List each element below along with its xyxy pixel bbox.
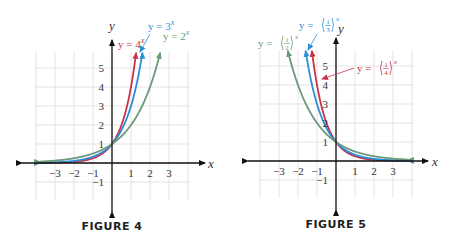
curve-label: y = 13x	[299, 15, 340, 34]
x-tick-label: −2	[292, 165, 304, 177]
x-tick-label: 3	[166, 167, 172, 179]
curve-label: y = 4x	[118, 36, 145, 50]
x-tick-label: 2	[371, 165, 377, 177]
y-tick-label: 2	[323, 117, 329, 129]
y-tick-label: 4	[99, 81, 105, 93]
svg-text:y =: y =	[357, 62, 371, 74]
curve-labels: y = 4xy = 3xy = 2x	[118, 18, 190, 52]
x-axis-label: x	[431, 154, 438, 169]
y-tick-label: 2	[99, 119, 105, 131]
svg-text:x: x	[393, 58, 398, 66]
y-axis-label: y	[107, 18, 115, 33]
label-leader-arrow	[308, 34, 317, 50]
svg-text:1: 1	[285, 36, 289, 44]
y-tick-label: −1	[316, 174, 328, 186]
y-tick-label: −1	[92, 176, 104, 188]
axes	[248, 38, 428, 210]
x-tick-label: −3	[49, 167, 61, 179]
y-tick-label: 1	[323, 136, 329, 148]
x-tick-label: −2	[68, 167, 80, 179]
y-tick-label: 5	[99, 62, 105, 74]
figures-canvas: −3−2−112354321−1 y x y = 4xy = 3xy = 2x …	[0, 0, 461, 245]
x-tick-label: 2	[147, 167, 153, 179]
curves	[288, 51, 408, 161]
curve-y-1-2-x	[288, 51, 408, 160]
figure-caption: FIGURE 4	[81, 220, 142, 233]
curve-label: y = 12x	[258, 33, 299, 52]
x-tick-label: 1	[128, 167, 134, 179]
figure-5: −3−2−112354321−1 x y = 14xy = 13xy = 12x…	[248, 15, 438, 231]
y-axis-label: y	[336, 21, 344, 36]
x-tick-label: −3	[273, 165, 285, 177]
svg-text:2: 2	[285, 44, 289, 52]
axes	[22, 40, 205, 212]
curve-label: y = 14x	[357, 58, 398, 77]
figure-4: −3−2−112354321−1 y x y = 4xy = 3xy = 2x …	[22, 18, 214, 233]
y-tick-label: 4	[323, 79, 329, 91]
y-tick-label: 5	[323, 60, 329, 72]
svg-text:x: x	[294, 33, 299, 41]
svg-text:y =: y =	[258, 37, 272, 49]
y-tick-label: 3	[323, 98, 329, 110]
figure-caption: FIGURE 5	[305, 218, 366, 231]
svg-text:3: 3	[326, 26, 330, 34]
svg-text:4: 4	[384, 69, 388, 77]
x-tick-label: 3	[390, 165, 396, 177]
curve-y-4-x	[40, 53, 136, 163]
y-tick-label: 1	[99, 138, 105, 150]
svg-text:1: 1	[384, 61, 388, 69]
x-axis-label: x	[207, 156, 214, 171]
svg-text:1: 1	[326, 18, 330, 26]
x-tick-label: 1	[352, 165, 358, 177]
svg-text:y =: y =	[299, 19, 313, 31]
curve-label: y = 2x	[163, 28, 190, 42]
y-tick-label: 3	[99, 100, 105, 112]
